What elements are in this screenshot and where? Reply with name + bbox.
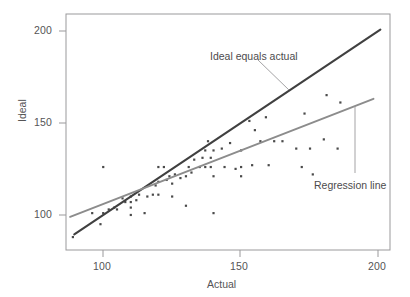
- data-point: [171, 183, 173, 185]
- y-tick-label-200: 200: [34, 24, 52, 36]
- data-point: [201, 157, 203, 159]
- leader-line-ideal-equals-actual: [258, 60, 289, 90]
- data-point: [152, 194, 154, 196]
- data-point: [146, 195, 148, 197]
- x-tick-label-100: 100: [93, 260, 111, 272]
- x-tick-label-200: 200: [368, 260, 386, 272]
- data-point: [163, 166, 165, 168]
- data-point: [135, 199, 137, 201]
- data-point: [281, 140, 283, 142]
- data-point: [210, 166, 212, 168]
- y-axis-ticks: [59, 31, 66, 215]
- x-axis-ticks: [103, 250, 378, 257]
- x-tick-label-150: 150: [230, 260, 248, 272]
- data-point: [268, 164, 270, 166]
- data-point: [254, 129, 256, 131]
- data-point: [295, 147, 297, 149]
- x-axis-title: Actual: [207, 278, 236, 290]
- annotation-ideal-equals-actual: Ideal equals actual: [210, 50, 298, 62]
- data-point: [130, 214, 132, 216]
- data-point: [193, 159, 195, 161]
- data-point: [221, 147, 223, 149]
- data-point: [188, 166, 190, 168]
- plot-canvas: [0, 0, 410, 297]
- data-point: [339, 101, 341, 103]
- data-point: [240, 175, 242, 177]
- data-point: [204, 149, 206, 151]
- data-point: [185, 205, 187, 207]
- data-point: [207, 140, 209, 142]
- data-point: [212, 212, 214, 214]
- data-point: [143, 212, 145, 214]
- data-point: [130, 206, 132, 208]
- data-point: [325, 94, 327, 96]
- data-point: [273, 140, 275, 142]
- y-tick-label-150: 150: [34, 116, 52, 128]
- annotation-leaders: [258, 60, 355, 173]
- data-point: [223, 166, 225, 168]
- data-point: [116, 208, 118, 210]
- data-point: [234, 168, 236, 170]
- data-point: [210, 157, 212, 159]
- data-point: [248, 120, 250, 122]
- data-point: [309, 147, 311, 149]
- data-point: [212, 149, 214, 151]
- data-point: [72, 236, 74, 238]
- data-point: [102, 166, 104, 168]
- data-point: [138, 194, 140, 196]
- y-tick-label-100: 100: [34, 208, 52, 220]
- y-axis-title: Ideal: [16, 99, 28, 122]
- trend-line-regression-line: [70, 99, 373, 217]
- data-point: [303, 112, 305, 114]
- data-point: [240, 166, 242, 168]
- data-point: [130, 201, 132, 203]
- data-point: [229, 142, 231, 144]
- data-point: [301, 166, 303, 168]
- data-point: [190, 171, 192, 173]
- data-point: [204, 166, 206, 168]
- data-point: [323, 138, 325, 140]
- data-point: [312, 173, 314, 175]
- annotation-regression-line: Regression line: [314, 179, 386, 191]
- data-point: [171, 195, 173, 197]
- data-point: [212, 175, 214, 177]
- data-points: [72, 94, 342, 238]
- data-point: [251, 164, 253, 166]
- scatter-plot-figure: 200 150 100 100 150 200 Ideal Actual Ide…: [0, 0, 410, 297]
- data-point: [179, 177, 181, 179]
- data-point: [337, 147, 339, 149]
- data-point: [265, 116, 267, 118]
- data-point: [99, 223, 101, 225]
- data-point: [185, 175, 187, 177]
- data-point: [157, 166, 159, 168]
- data-point: [157, 194, 159, 196]
- data-point: [91, 212, 93, 214]
